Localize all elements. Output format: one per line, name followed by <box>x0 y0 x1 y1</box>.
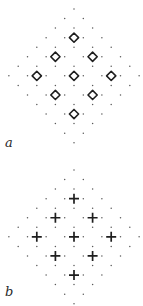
lattice-dot <box>92 123 94 125</box>
lattice-dot <box>92 227 94 229</box>
lattice-dot <box>64 18 66 20</box>
lattice-dot <box>64 75 66 77</box>
lattice-dot <box>73 188 75 190</box>
lattice-dot <box>64 37 66 39</box>
lattice-dot <box>36 66 38 68</box>
lattice-dot <box>64 198 66 200</box>
lattice-dot <box>64 255 66 257</box>
lattice-dot <box>101 113 103 115</box>
lattice-dot <box>110 46 112 48</box>
lattice-dot <box>138 75 140 77</box>
lattice-dot <box>64 293 66 295</box>
lattice-dot <box>64 132 66 134</box>
lattice-dot <box>55 27 57 29</box>
lattice-dot <box>27 255 29 257</box>
lattice-dot <box>73 142 75 144</box>
diamond-marker-icon <box>88 52 97 61</box>
lattice-dot <box>101 94 103 96</box>
lattice-dot <box>64 236 66 238</box>
lattice-dot <box>73 123 75 125</box>
lattice-dot <box>45 255 47 257</box>
lattice-dot <box>17 227 19 229</box>
lattice-dot <box>8 236 10 238</box>
lattice-dot <box>110 265 112 267</box>
lattice-dot <box>27 75 29 77</box>
lattice-dot <box>45 236 47 238</box>
lattice-dot <box>17 85 19 87</box>
lattice-dot <box>45 56 47 58</box>
lattice-dot <box>64 274 66 276</box>
lattice-dot <box>55 207 57 209</box>
lattice-dot <box>55 123 57 125</box>
lattice-dot <box>36 104 38 106</box>
lattice-dot <box>120 75 122 77</box>
lattice-dot <box>110 207 112 209</box>
cross-marker-icon <box>88 213 98 223</box>
lattice-dot <box>55 246 57 248</box>
lattice-dot <box>55 46 57 48</box>
cross-marker-icon <box>50 213 60 223</box>
lattice-dot <box>73 27 75 29</box>
lattice-dot <box>55 85 57 87</box>
lattice-dot <box>83 179 85 181</box>
lattice-dot <box>73 66 75 68</box>
lattice-dot <box>101 217 103 219</box>
lattice-dot <box>45 75 47 77</box>
lattice-dot <box>92 246 94 248</box>
lattice-dot <box>92 284 94 286</box>
diamond-marker-icon <box>32 71 41 80</box>
lattice-dot <box>83 217 85 219</box>
lattice-dot <box>110 85 112 87</box>
lattice-dot <box>83 132 85 134</box>
lattice-dot <box>45 274 47 276</box>
lattice-dot <box>110 104 112 106</box>
lattice-dot <box>64 56 66 58</box>
lattice-dot <box>92 104 94 106</box>
panel-b-cross-lattice <box>8 169 140 304</box>
lattice-dot <box>129 66 131 68</box>
diamond-marker-icon <box>51 52 60 61</box>
lattice-dot <box>92 27 94 29</box>
lattice-dot <box>36 46 38 48</box>
lattice-dot <box>27 94 29 96</box>
cross-marker-icon <box>69 270 79 280</box>
lattice-dot <box>45 113 47 115</box>
cross-marker-icon <box>50 251 60 261</box>
lattice-dot <box>73 303 75 305</box>
lattice-dot <box>27 56 29 58</box>
lattice-dot <box>36 227 38 229</box>
lattice-dot <box>45 94 47 96</box>
lattice-dot <box>92 85 94 87</box>
lattice-dot <box>17 66 19 68</box>
lattice-dot <box>73 85 75 87</box>
panel-label-a: a <box>5 136 13 149</box>
lattice-dot <box>129 227 131 229</box>
cross-marker-icon <box>69 232 79 242</box>
lattice-dot <box>83 94 85 96</box>
lattice-dot <box>129 85 131 87</box>
lattice-dot <box>45 198 47 200</box>
lattice-dot <box>101 274 103 276</box>
lattice-dot <box>92 46 94 48</box>
lattice-dot <box>55 104 57 106</box>
lattice-dot <box>120 94 122 96</box>
lattice-dot <box>8 75 10 77</box>
lattice-dot <box>110 246 112 248</box>
lattice-dot <box>64 217 66 219</box>
panel-a-diamond-lattice <box>8 8 140 143</box>
lattice-dot <box>101 56 103 58</box>
lattice-dot <box>92 207 94 209</box>
lattice-dot <box>73 284 75 286</box>
lattice-dot <box>83 113 85 115</box>
lattice-dot <box>110 66 112 68</box>
panel-label-b: b <box>5 285 13 298</box>
lattice-dot <box>83 293 85 295</box>
diamond-marker-icon <box>69 109 78 118</box>
lattice-dot <box>55 265 57 267</box>
lattice-dot <box>36 265 38 267</box>
lattice-dot <box>36 207 38 209</box>
lattice-dot <box>101 37 103 39</box>
diamond-marker-icon <box>107 71 116 80</box>
lattice-dot <box>120 255 122 257</box>
lattice-dot <box>101 236 103 238</box>
